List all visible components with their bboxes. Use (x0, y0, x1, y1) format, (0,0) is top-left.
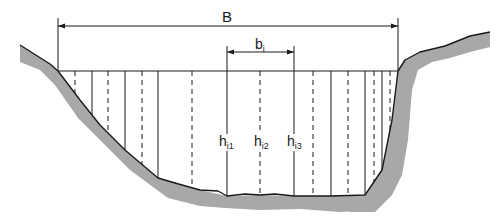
total-width-label: B (222, 9, 232, 24)
depth-3-base: h (287, 133, 295, 149)
left-bank (20, 45, 372, 212)
river-cross-section-diagram (0, 0, 502, 222)
depth-3-subscript: i3 (295, 141, 302, 151)
depth-1-subscript: i1 (227, 141, 234, 151)
total-width-label-text: B (222, 8, 232, 25)
subsection-width-subscript: i (263, 44, 265, 54)
right-bank (340, 32, 490, 212)
depth-label-1: hi1 (218, 134, 235, 151)
depth-label-2: hi2 (253, 134, 270, 151)
subsection-width-base: b (255, 36, 263, 52)
depth-1-base: h (219, 133, 227, 149)
depth-2-subscript: i2 (262, 141, 269, 151)
subsection-width-label: bi (255, 37, 265, 54)
dimension-total-width (58, 18, 398, 71)
depth-2-base: h (254, 133, 262, 149)
depth-label-3: hi3 (286, 134, 303, 151)
